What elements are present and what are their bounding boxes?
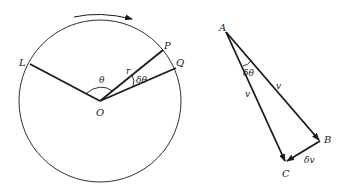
radius-OP	[100, 50, 163, 101]
label-v-AC: v	[245, 89, 250, 99]
label-v-AB: v	[276, 81, 281, 91]
delta-theta-arc	[132, 75, 134, 87]
rotation-arrow-icon	[74, 14, 132, 19]
diagram-canvas: L P Q O θ r δθ A B C δθ v v δv	[0, 0, 347, 191]
vector-AC	[226, 32, 285, 161]
label-A: A	[218, 22, 226, 33]
label-C: C	[282, 168, 290, 179]
label-P: P	[163, 40, 171, 51]
label-r: r	[126, 66, 131, 76]
label-L: L	[18, 57, 26, 68]
radius-OL	[30, 64, 100, 101]
vector-triangle: A B C δθ v v δv	[218, 22, 331, 179]
label-delta-theta: δθ	[136, 75, 147, 85]
label-apex-delta-theta: δθ	[243, 68, 254, 78]
apex-angle-arc	[243, 61, 251, 66]
circle-diagram: L P Q O θ r δθ	[18, 14, 184, 182]
label-theta: θ	[99, 75, 105, 85]
vector-AB	[226, 32, 319, 140]
label-O: O	[96, 107, 104, 118]
label-delta-v: δv	[304, 155, 315, 165]
label-Q: Q	[176, 57, 184, 68]
label-B: B	[323, 134, 331, 145]
theta-arc	[86, 87, 113, 94]
